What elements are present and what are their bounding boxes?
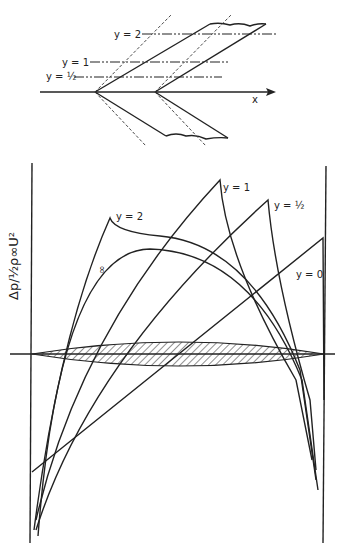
- curve-yinf: [38, 249, 318, 536]
- curve-label-y1: y = 1: [223, 182, 250, 193]
- left-boundary: [30, 163, 32, 543]
- curve-label-yinf: ∞: [96, 266, 107, 274]
- diagram-canvas: y = 2 y = 1 y = ½ x y = 1 y = ½ y = 2: [0, 0, 338, 543]
- wing-tip-upper: [210, 23, 266, 26]
- label-y1: y = 1: [62, 57, 89, 68]
- curve-label-y0: y = 0: [296, 269, 323, 280]
- wing-planform-schematic: y = 2 y = 1 y = ½ x: [40, 14, 278, 146]
- label-y2: y = 2: [114, 29, 141, 40]
- label-yhalf: y = ½: [46, 71, 77, 82]
- y-axis-label: Δp/½ρ∞U²: [6, 232, 21, 300]
- curve-y2: [34, 218, 316, 530]
- label-x-axis: x: [252, 94, 258, 105]
- curve-label-y2: y = 2: [116, 211, 143, 222]
- curve-label-yhalf: y = ½: [274, 200, 305, 211]
- trailing-edge-lower: [155, 92, 228, 138]
- pressure-distribution-plot: y = 1 y = ½ y = 2 ∞ y = 0 Δp/½ρ∞U²: [6, 163, 335, 543]
- mach-line-2-upper: [155, 14, 232, 92]
